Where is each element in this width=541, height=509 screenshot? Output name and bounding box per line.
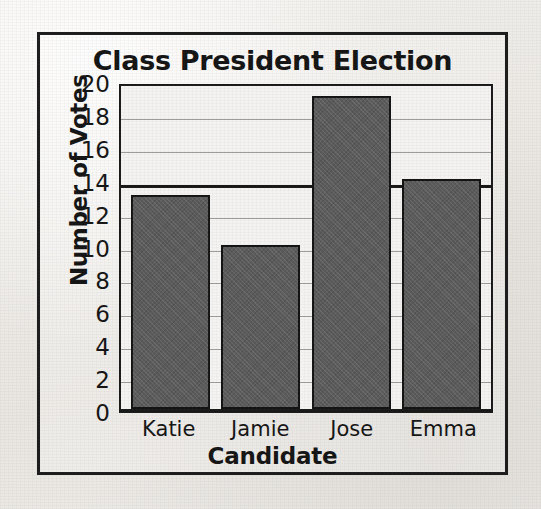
chart-frame: Class President Election Number of Votes…: [37, 32, 508, 475]
y-tick-12: 12: [62, 204, 110, 227]
bar-emma[interactable]: [402, 179, 481, 409]
y-tick-6: 6: [62, 303, 110, 326]
y-tick-10: 10: [62, 237, 110, 260]
bar-slot-emma: [397, 86, 488, 409]
y-tick-4: 4: [62, 336, 110, 359]
x-tick-katie: Katie: [123, 417, 215, 441]
plot-area: [119, 84, 493, 413]
x-tick-emma: Emma: [398, 417, 490, 441]
bar-jamie[interactable]: [221, 245, 300, 410]
bar-series: [121, 86, 491, 409]
x-tick-jamie: Jamie: [215, 417, 307, 441]
y-tick-14: 14: [62, 171, 110, 194]
y-tick-18: 18: [62, 105, 110, 128]
figure-page: Class President Election Number of Votes…: [0, 0, 541, 509]
y-tick-16: 16: [62, 138, 110, 161]
y-tick-20: 20: [62, 73, 110, 96]
x-tick-jose: Jose: [306, 417, 398, 441]
y-tick-8: 8: [62, 270, 110, 293]
x-axis-tick-labels: KatieJamieJoseEmma: [119, 417, 493, 441]
bar-slot-katie: [125, 86, 216, 409]
bar-slot-jamie: [216, 86, 307, 409]
y-tick-0: 0: [62, 402, 110, 425]
bar-katie[interactable]: [131, 195, 210, 409]
bar-jose[interactable]: [312, 96, 391, 409]
y-tick-2: 2: [62, 369, 110, 392]
bar-slot-jose: [306, 86, 397, 409]
y-axis-tick-labels: 20181614121086420: [62, 84, 110, 413]
x-axis-label: Candidate: [40, 443, 505, 469]
